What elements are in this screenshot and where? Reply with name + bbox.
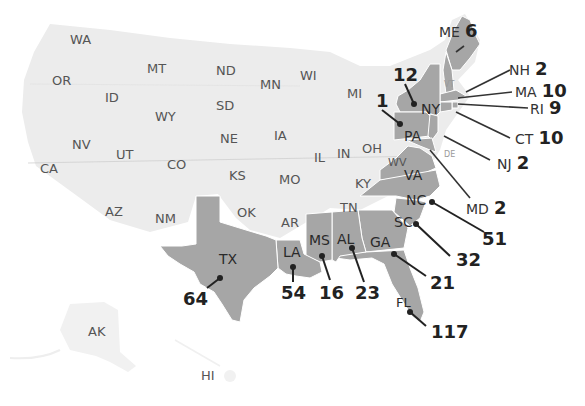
label-ky: KY	[355, 176, 371, 191]
label-hi: HI	[201, 368, 215, 383]
value-tx: 64	[183, 288, 208, 309]
label-ne: NE	[220, 131, 238, 146]
value-al: 23	[355, 282, 380, 303]
label-ga: GA	[370, 234, 390, 250]
label-il: IL	[314, 150, 325, 165]
label-ny: NY	[421, 101, 440, 117]
label-ok: OK	[237, 205, 256, 220]
label-wa: WA	[70, 32, 91, 47]
alaska-islands	[10, 350, 60, 358]
callout-abbr: NH	[509, 62, 530, 78]
label-az: AZ	[105, 204, 123, 219]
value-sc: 32	[456, 249, 481, 270]
label-mo: MO	[279, 172, 300, 187]
callout-abbr: RI	[530, 101, 544, 117]
label-nv: NV	[72, 137, 91, 152]
callout-value: 9	[549, 97, 562, 118]
label-nc: NC	[406, 192, 426, 208]
callout-ri: RI 9	[530, 97, 561, 118]
label-sc: SC	[394, 214, 413, 230]
callout-ct: CT 10	[515, 127, 563, 148]
callout-md: MD 2	[466, 197, 506, 218]
label-va: VA	[404, 167, 422, 183]
label-ms: MS	[309, 232, 330, 248]
callout-value: 2	[494, 197, 507, 218]
label-ar: AR	[281, 215, 299, 230]
callout-abbr: NJ	[497, 156, 512, 172]
callout-value: 10	[538, 127, 563, 148]
label-tx: TX	[219, 251, 237, 267]
hawaii-islands	[175, 340, 220, 366]
label-mi: MI	[347, 86, 362, 101]
label-wy: WY	[155, 109, 176, 124]
value-fl: 117	[431, 321, 469, 342]
state-ct	[440, 102, 452, 112]
label-nm: NM	[155, 211, 176, 226]
label-mn: MN	[260, 77, 281, 92]
value-ga: 21	[430, 272, 455, 293]
label-nd: ND	[216, 63, 236, 78]
value-la: 54	[281, 282, 306, 303]
label-pa: PA	[404, 128, 421, 144]
callout-nh: NH 2	[509, 58, 548, 79]
callout-value: 6	[465, 20, 478, 41]
callout-abbr: CT	[515, 131, 533, 147]
value-ms: 16	[319, 282, 344, 303]
callout-value: 2	[535, 58, 548, 79]
callout-abbr: ME	[439, 24, 460, 40]
label-de: DE	[444, 150, 455, 159]
label-vt: VT	[444, 80, 454, 89]
state-hi	[224, 370, 236, 382]
label-wi: WI	[300, 68, 317, 83]
label-ia: IA	[274, 128, 287, 143]
callout-nj: NJ 2	[497, 152, 529, 173]
label-id: ID	[105, 90, 119, 105]
label-oh: OH	[362, 141, 382, 156]
state-ri	[452, 102, 458, 108]
label-la: LA	[283, 244, 301, 260]
label-or: OR	[52, 73, 71, 88]
label-tn: TN	[340, 200, 358, 215]
label-co: CO	[167, 157, 186, 172]
value-pa: 1	[376, 90, 389, 111]
label-ak: AK	[88, 324, 105, 339]
callout-me: ME 6	[439, 20, 478, 41]
label-ca: CA	[40, 161, 58, 176]
callout-value: 2	[517, 152, 530, 173]
label-in: IN	[337, 146, 351, 161]
label-ks: KS	[229, 168, 246, 183]
label-mt: MT	[147, 61, 166, 76]
value-ny: 12	[393, 64, 418, 85]
label-al: AL	[337, 231, 354, 247]
value-nc: 51	[482, 228, 507, 249]
callout-abbr: MD	[466, 201, 489, 217]
label-fl: FL	[396, 295, 411, 310]
label-sd: SD	[216, 98, 234, 113]
label-ut: UT	[116, 147, 133, 162]
